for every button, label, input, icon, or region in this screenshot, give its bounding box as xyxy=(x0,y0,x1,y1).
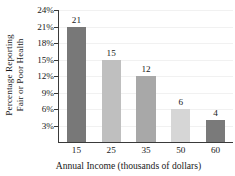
y-axis-tick-mark xyxy=(54,27,58,28)
y-axis-tick-mark xyxy=(54,76,58,77)
y-axis-tick-mark xyxy=(54,126,58,127)
y-axis-tick-mark xyxy=(54,93,58,94)
y-axis-title-line-1: Percentage Reporting xyxy=(4,34,15,115)
x-axis-tick-label: 60 xyxy=(198,145,233,156)
bar[interactable] xyxy=(67,27,86,143)
bar-value-label: 6 xyxy=(171,97,190,107)
y-axis-tick-label: 18% xyxy=(28,38,54,48)
y-axis-tick-label: 9% xyxy=(28,88,54,98)
bar[interactable] xyxy=(171,109,190,142)
y-axis-tick-label: 3% xyxy=(28,121,54,131)
bar-chart: Percentage Reporting Fair or Poor Health… xyxy=(0,0,235,176)
y-axis-title-line-2: Fair or Poor Health xyxy=(15,34,26,115)
x-axis-tick-labels: 1525355060 xyxy=(59,145,233,157)
y-axis-tick-label: 21% xyxy=(28,22,54,32)
x-axis-tick-label: 15 xyxy=(59,145,94,156)
x-axis-title: Annual Income (thousands of dollars) xyxy=(0,160,235,172)
y-axis-title: Percentage Reporting Fair or Poor Health xyxy=(0,0,30,150)
x-axis-line xyxy=(58,142,233,143)
x-axis-tick-label: 25 xyxy=(94,145,129,156)
y-axis-tick-label: 15% xyxy=(28,55,54,65)
bar-group: 15 xyxy=(102,10,121,142)
bar-group: 4 xyxy=(206,10,225,142)
bar-group: 21 xyxy=(67,10,86,142)
y-axis-tick-mark xyxy=(54,10,58,11)
plot-area: 21151264 xyxy=(58,10,233,142)
y-axis-tick-mark xyxy=(54,60,58,61)
bar-value-label: 12 xyxy=(136,64,155,74)
bar-value-label: 21 xyxy=(67,15,86,25)
y-axis-tick-mark xyxy=(54,109,58,110)
bar-value-label: 15 xyxy=(102,48,121,58)
bar-series: 21151264 xyxy=(59,10,233,142)
bar-group: 6 xyxy=(171,10,190,142)
bar-group: 12 xyxy=(136,10,155,142)
bar-value-label: 4 xyxy=(206,108,225,118)
y-axis-tick-label: 6% xyxy=(28,104,54,114)
y-axis-tick-labels: 24%21%18%15%12%9%6%3% xyxy=(28,0,54,176)
bar[interactable] xyxy=(206,120,225,142)
y-axis-tick-label: 24% xyxy=(28,5,54,15)
y-axis-tick-label: 12% xyxy=(28,71,54,81)
bar[interactable] xyxy=(136,76,155,142)
bar[interactable] xyxy=(102,60,121,143)
y-axis-tick-mark xyxy=(54,43,58,44)
x-axis-tick-label: 50 xyxy=(163,145,198,156)
x-axis-tick-label: 35 xyxy=(129,145,164,156)
